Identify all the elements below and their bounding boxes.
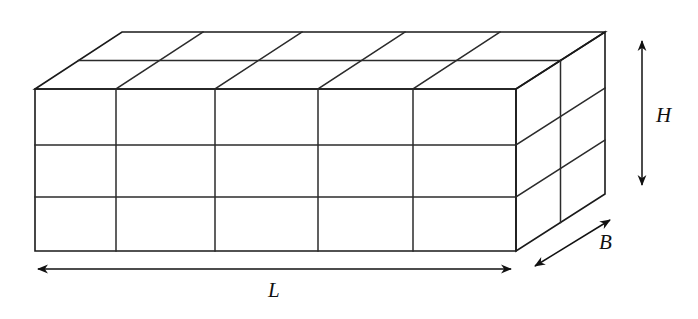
breadth-label: B	[599, 232, 612, 253]
right-face-group	[516, 32, 605, 251]
front-face-outline	[35, 89, 516, 251]
figure-canvas: L H B	[0, 0, 698, 319]
height-label: H	[656, 105, 671, 126]
length-label: L	[268, 280, 280, 301]
front-face-group	[35, 89, 516, 251]
cuboid-drawing	[0, 0, 698, 319]
top-face-group	[35, 32, 605, 89]
